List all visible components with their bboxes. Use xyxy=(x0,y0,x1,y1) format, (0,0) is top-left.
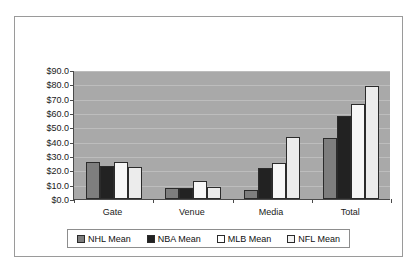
legend-swatch-icon xyxy=(147,235,155,243)
legend-item-nhl[interactable]: NHL Mean xyxy=(77,234,131,244)
bar-nhl-mean-venue[interactable] xyxy=(165,188,179,199)
x-axis-category-label: Gate xyxy=(73,207,152,217)
y-axis-tick-label: $70.0 xyxy=(46,96,69,105)
legend-swatch-icon xyxy=(217,235,225,243)
y-axis-labels: $90.0$80.0$70.0$60.0$50.0$40.0$30.0$20.0… xyxy=(15,71,69,200)
legend-label: NBA Mean xyxy=(158,234,201,244)
x-axis-category-label: Venue xyxy=(152,207,231,217)
y-axis-tick-label: $40.0 xyxy=(46,139,69,148)
y-axis-tick-label: $50.0 xyxy=(46,124,69,133)
bar-nhl-mean-total[interactable] xyxy=(323,138,337,199)
y-axis-tick-label: $30.0 xyxy=(46,153,69,162)
bar-nhl-mean-media[interactable] xyxy=(244,190,258,199)
x-axis-tick xyxy=(312,199,313,203)
bar-nfl-mean-media[interactable] xyxy=(286,137,300,199)
y-axis-tick-label: $80.0 xyxy=(46,81,69,90)
bar-nba-mean-venue[interactable] xyxy=(179,188,193,199)
y-axis-tick-label: $90.0 xyxy=(46,67,69,76)
x-axis-tick xyxy=(74,199,75,203)
bar-nfl-mean-gate[interactable] xyxy=(128,167,142,199)
bar-nba-mean-gate[interactable] xyxy=(100,166,114,199)
x-axis-tick xyxy=(391,199,392,203)
bar-group xyxy=(153,71,232,199)
legend-label: NHL Mean xyxy=(88,234,131,244)
y-axis-tick-label: $10.0 xyxy=(46,182,69,191)
bar-group xyxy=(233,71,312,199)
bar-nfl-mean-venue[interactable] xyxy=(207,187,221,199)
bar-nba-mean-media[interactable] xyxy=(258,168,272,199)
legend-swatch-icon xyxy=(77,235,85,243)
bar-nfl-mean-total[interactable] xyxy=(365,86,379,199)
bar-nhl-mean-gate[interactable] xyxy=(86,162,100,199)
legend-label: MLB Mean xyxy=(228,234,272,244)
x-axis-tick xyxy=(153,199,154,203)
legend-item-nba[interactable]: NBA Mean xyxy=(147,234,201,244)
x-axis-tick xyxy=(233,199,234,203)
bar-mlb-mean-total[interactable] xyxy=(351,104,365,199)
legend-item-mlb[interactable]: MLB Mean xyxy=(217,234,272,244)
bar-mlb-mean-venue[interactable] xyxy=(193,181,207,199)
legend-item-nfl[interactable]: NFL Mean xyxy=(287,234,340,244)
y-axis-tick-label: $0.0 xyxy=(51,196,69,205)
legend-swatch-icon xyxy=(287,235,295,243)
bar-nba-mean-total[interactable] xyxy=(337,116,351,199)
chart-legend: NHL MeanNBA MeanMLB MeanNFL Mean xyxy=(67,229,350,248)
x-axis-category-label: Total xyxy=(311,207,390,217)
bar-group xyxy=(312,71,391,199)
plot-wrapper: $90.0$80.0$70.0$60.0$50.0$40.0$30.0$20.0… xyxy=(15,17,404,258)
bar-group xyxy=(74,71,153,199)
plot-area xyxy=(73,71,390,200)
bar-mlb-mean-gate[interactable] xyxy=(114,162,128,199)
x-axis-category-label: Media xyxy=(232,207,311,217)
legend-label: NFL Mean xyxy=(298,234,340,244)
bar-mlb-mean-media[interactable] xyxy=(272,163,286,199)
y-axis-tick-label: $20.0 xyxy=(46,167,69,176)
chart-frame: $90.0$80.0$70.0$60.0$50.0$40.0$30.0$20.0… xyxy=(14,16,403,257)
y-axis-tick-label: $60.0 xyxy=(46,110,69,119)
